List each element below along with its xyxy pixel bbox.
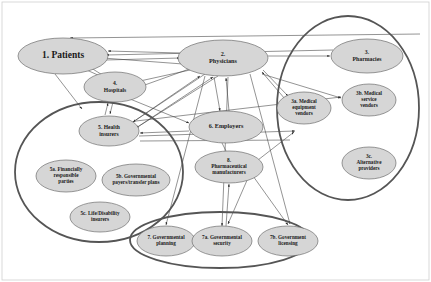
node-governmental-payers[interactable]: 5b. Governmentalpayers/transfer plans — [102, 164, 170, 196]
diagram-canvas: 1. Patients2.Physicians3.Pharmacies4.Hos… — [0, 0, 431, 282]
node-label-governmental-licensing: licensing — [278, 240, 298, 246]
node-label-alternative-providers: providers — [358, 165, 379, 171]
node-label-health-insurers: 5. Health — [98, 124, 121, 130]
stakeholder-diagram: 1. Patients2.Physicians3.Pharmacies4.Hos… — [0, 0, 431, 282]
edge-employers-insurers — [140, 131, 189, 133]
node-label-life-disability-insurers: 5c. Life/Disability — [80, 210, 120, 216]
node-label-alternative-providers: 3c. — [366, 153, 373, 159]
node-label-employers: 6. Employers — [209, 122, 244, 129]
node-governmental-planning[interactable]: 7. Governmentalplanning — [137, 226, 195, 256]
node-label-medical-equipment-vendors: vendors — [295, 110, 313, 116]
node-label-medical-service-vendors: 3b. Medical — [356, 90, 382, 96]
node-label-financially-responsible-parties: responsible — [54, 172, 80, 178]
node-label-governmental-licensing: 7b. Government — [270, 234, 306, 240]
node-label-governmental-security: security — [213, 240, 231, 246]
node-label-health-insurers: insurers — [99, 131, 119, 137]
node-label-pharma-manufacturers: 8. — [227, 157, 232, 163]
node-label-pharmacies: Pharmacies — [353, 56, 383, 62]
node-label-life-disability-insurers: insurers — [91, 216, 109, 222]
node-label-physicians: 2. — [221, 50, 226, 57]
node-label-governmental-planning: 7. Governmental — [147, 234, 185, 240]
edge-patients-physicians-top — [70, 34, 420, 38]
node-medical-equipment-vendors[interactable]: 3a. Medicalequipmentvendors — [277, 92, 331, 124]
edge-pharma-vendors — [258, 132, 294, 160]
node-label-governmental-security: 7a. Governmental — [202, 234, 242, 240]
edge-pharma-security — [228, 178, 248, 224]
node-label-pharmacies: 3. — [365, 49, 370, 55]
node-label-medical-equipment-vendors: equipment — [292, 104, 316, 110]
node-label-medical-equipment-vendors: 3a. Medical — [291, 98, 317, 104]
node-pharmacies[interactable]: 3.Pharmacies — [331, 39, 403, 73]
node-patients[interactable]: 1. Patients — [18, 38, 108, 74]
edge-physicians-planning — [166, 76, 205, 225]
node-label-financially-responsible-parties: 5a. Financially — [50, 166, 83, 172]
node-label-alternative-providers: Alternative — [356, 159, 382, 165]
node-label-hospitals: Hospitals — [104, 87, 127, 93]
node-health-insurers[interactable]: 5. Healthinsurers — [79, 116, 139, 146]
node-label-patients: 1. Patients — [42, 50, 85, 60]
node-governmental-licensing[interactable]: 7b. Governmentlicensing — [258, 226, 318, 256]
node-hospitals[interactable]: 4.Hospitals — [84, 72, 146, 102]
edge-physicians-patients-1 — [108, 51, 180, 53]
node-label-pharma-manufacturers: manufacturers — [212, 169, 245, 175]
node-pharma-manufacturers[interactable]: 8.Pharmaceuticalmanufacturers — [195, 151, 263, 183]
edge-insurers-hospitals — [105, 103, 108, 115]
node-governmental-security[interactable]: 7a. Governmentalsecurity — [192, 226, 252, 256]
edge-physicians-employers — [214, 77, 220, 111]
node-employers[interactable]: 6. Employers — [189, 111, 263, 143]
node-label-medical-service-vendors: vendors — [360, 102, 378, 108]
node-medical-service-vendors[interactable]: 3b. Medicalservicevendors — [342, 84, 396, 116]
edge-physicians-equipment — [263, 70, 288, 96]
node-label-governmental-payers: payers/transfer plans — [112, 179, 159, 185]
node-financially-responsible-parties[interactable]: 5a. Financiallyresponsibleparties — [36, 160, 96, 192]
node-label-financially-responsible-parties: parties — [58, 178, 73, 184]
node-label-hospitals: 4. — [113, 80, 118, 86]
node-label-pharma-manufacturers: Pharmaceutical — [211, 163, 247, 169]
node-label-physicians: Physicians — [209, 57, 237, 64]
nodes-layer: 1. Patients2.Physicians3.Pharmacies4.Hos… — [18, 38, 403, 256]
node-label-medical-service-vendors: service — [361, 96, 377, 102]
node-label-governmental-planning: planning — [156, 240, 176, 246]
node-alternative-providers[interactable]: 3c.Alternativeproviders — [342, 147, 396, 179]
node-life-disability-insurers[interactable]: 5c. Life/Disabilityinsurers — [70, 202, 130, 232]
node-physicians[interactable]: 2.Physicians — [178, 40, 268, 76]
edge-hospitals-physicians — [142, 68, 192, 86]
edge-security-pharma — [226, 184, 229, 226]
node-label-governmental-payers: 5b. Governmental — [116, 173, 157, 179]
edge-hospitals-insurers — [110, 102, 113, 114]
